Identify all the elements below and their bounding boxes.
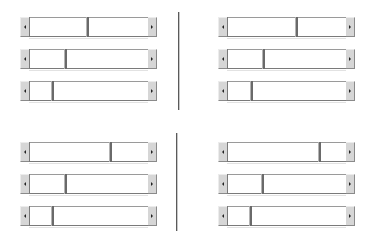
scroll-right-button[interactable] — [148, 206, 157, 226]
horizontal-scrollbar-top-left-1[interactable] — [20, 17, 157, 37]
left-arrow-icon — [222, 57, 224, 61]
scroll-right-button[interactable] — [148, 81, 157, 101]
scroll-right-button[interactable] — [148, 142, 157, 162]
track-edge — [227, 81, 228, 101]
horizontal-scrollbar-bottom-right-3[interactable] — [218, 206, 355, 226]
scroll-track[interactable] — [29, 17, 148, 37]
scroll-right-button[interactable] — [346, 49, 355, 69]
horizontal-scrollbar-bottom-left-1[interactable] — [20, 142, 157, 162]
scroll-track[interactable] — [227, 142, 346, 162]
right-arrow-icon — [349, 182, 351, 186]
right-arrow-icon — [151, 182, 153, 186]
right-arrow-icon — [151, 25, 153, 29]
scroll-thumb[interactable] — [261, 174, 264, 194]
track-edge — [227, 142, 228, 162]
scroll-right-button[interactable] — [346, 142, 355, 162]
scroll-left-button[interactable] — [218, 206, 227, 226]
horizontal-scrollbar-bottom-right-2[interactable] — [218, 174, 355, 194]
scroll-right-button[interactable] — [346, 206, 355, 226]
scroll-left-button[interactable] — [20, 17, 29, 37]
scroll-left-button[interactable] — [20, 49, 29, 69]
right-arrow-icon — [349, 89, 351, 93]
horizontal-scrollbar-top-right-1[interactable] — [218, 17, 355, 37]
scroll-right-button[interactable] — [346, 174, 355, 194]
scroll-right-button[interactable] — [346, 81, 355, 101]
scroll-track[interactable] — [227, 17, 346, 37]
scroll-right-button[interactable] — [148, 17, 157, 37]
left-arrow-icon — [222, 25, 224, 29]
track-edge — [29, 49, 30, 69]
horizontal-scrollbar-top-left-3[interactable] — [20, 81, 157, 101]
right-arrow-icon — [349, 150, 351, 154]
horizontal-scrollbar-bottom-right-1[interactable] — [218, 142, 355, 162]
right-arrow-icon — [151, 57, 153, 61]
scroll-left-button[interactable] — [20, 81, 29, 101]
scroll-right-button[interactable] — [346, 17, 355, 37]
scroll-track[interactable] — [227, 81, 346, 101]
left-arrow-icon — [24, 150, 26, 154]
track-edge — [29, 174, 30, 194]
vertical-divider — [178, 12, 179, 110]
left-arrow-icon — [222, 89, 224, 93]
left-arrow-icon — [24, 182, 26, 186]
scroll-thumb[interactable] — [262, 49, 265, 69]
scroll-track[interactable] — [29, 206, 148, 226]
scroll-left-button[interactable] — [218, 142, 227, 162]
scroll-thumb[interactable] — [318, 142, 321, 162]
scroll-thumb[interactable] — [249, 206, 252, 226]
horizontal-scrollbar-top-right-2[interactable] — [218, 49, 355, 69]
scroll-left-button[interactable] — [20, 142, 29, 162]
right-arrow-icon — [349, 57, 351, 61]
scroll-left-button[interactable] — [20, 174, 29, 194]
left-arrow-icon — [222, 214, 224, 218]
left-arrow-icon — [222, 150, 224, 154]
scroll-track[interactable] — [29, 49, 148, 69]
scroll-left-button[interactable] — [218, 81, 227, 101]
scroll-track[interactable] — [227, 206, 346, 226]
right-arrow-icon — [151, 214, 153, 218]
scroll-thumb[interactable] — [51, 81, 54, 101]
scroll-left-button[interactable] — [218, 49, 227, 69]
horizontal-scrollbar-bottom-left-3[interactable] — [20, 206, 157, 226]
right-arrow-icon — [349, 214, 351, 218]
left-arrow-icon — [24, 25, 26, 29]
track-edge — [227, 206, 228, 226]
scroll-track[interactable] — [227, 49, 346, 69]
scroll-thumb[interactable] — [86, 17, 89, 37]
scroll-track[interactable] — [227, 174, 346, 194]
track-edge — [227, 49, 228, 69]
scroll-right-button[interactable] — [148, 174, 157, 194]
scroll-thumb[interactable] — [64, 174, 67, 194]
track-edge — [227, 174, 228, 194]
horizontal-scrollbar-top-right-3[interactable] — [218, 81, 355, 101]
scroll-thumb[interactable] — [295, 17, 298, 37]
scroll-left-button[interactable] — [218, 17, 227, 37]
scroll-thumb[interactable] — [250, 81, 253, 101]
scroll-thumb[interactable] — [64, 49, 67, 69]
scroll-track[interactable] — [29, 81, 148, 101]
scroll-left-button[interactable] — [218, 174, 227, 194]
horizontal-scrollbar-bottom-left-2[interactable] — [20, 174, 157, 194]
left-arrow-icon — [24, 89, 26, 93]
right-arrow-icon — [151, 89, 153, 93]
right-arrow-icon — [349, 25, 351, 29]
scroll-thumb[interactable] — [109, 142, 112, 162]
track-edge — [29, 17, 30, 37]
vertical-divider — [176, 133, 177, 231]
track-edge — [29, 142, 30, 162]
left-arrow-icon — [24, 57, 26, 61]
right-arrow-icon — [151, 150, 153, 154]
scrollbar-demo-canvas — [0, 0, 369, 240]
track-edge — [29, 81, 30, 101]
left-arrow-icon — [222, 182, 224, 186]
track-edge — [227, 17, 228, 37]
scroll-track[interactable] — [29, 142, 148, 162]
scroll-left-button[interactable] — [20, 206, 29, 226]
left-arrow-icon — [24, 214, 26, 218]
horizontal-scrollbar-top-left-2[interactable] — [20, 49, 157, 69]
scroll-thumb[interactable] — [51, 206, 54, 226]
scroll-track[interactable] — [29, 174, 148, 194]
scroll-right-button[interactable] — [148, 49, 157, 69]
track-edge — [29, 206, 30, 226]
